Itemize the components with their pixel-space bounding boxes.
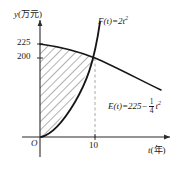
y-axis-label: y(万元) — [14, 10, 42, 19]
x-tick-label-10: 10 — [89, 141, 98, 150]
hatched-area — [36, 38, 102, 142]
x-axis-label-unit: (年) — [151, 145, 166, 155]
curve-E-label: E(t)=225−14t2 — [108, 98, 161, 114]
curve-F-label-text: F(t)=2t — [98, 16, 125, 26]
y-tick-label-200: 200 — [17, 52, 31, 61]
curve-F-label: F(t)=2t2 — [98, 15, 128, 26]
curve-E-label-exponent: 2 — [158, 100, 161, 106]
curve-E-label-text: E(t)=225− — [108, 101, 148, 111]
fraction-denominator: 4 — [149, 107, 155, 115]
y-tick-label-225: 225 — [17, 38, 31, 47]
x-axis-label: t(年) — [148, 146, 166, 155]
origin-label: O — [31, 139, 38, 148]
y-axis-label-unit: (万元) — [18, 9, 42, 19]
graph-figure: y(万元) t(年) 225 200 10 O F(t)=2t2 E(t)=22… — [0, 0, 188, 173]
curve-F-label-exponent: 2 — [125, 15, 128, 21]
curve-E-label-fraction: 14 — [149, 98, 155, 114]
